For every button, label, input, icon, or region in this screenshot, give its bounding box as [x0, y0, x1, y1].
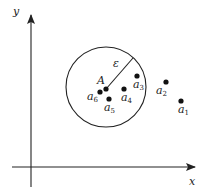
radius-line	[106, 58, 133, 89]
point-a1-label: a1	[178, 103, 189, 117]
point-a6-label: a6	[87, 90, 99, 104]
epsilon-label: ε	[113, 57, 119, 70]
point-a6	[97, 89, 102, 94]
point-a2	[163, 79, 168, 84]
point-A-label: A	[96, 74, 105, 87]
point-a2-label: a2	[156, 84, 167, 98]
point-a3-label: a3	[133, 78, 144, 92]
point-a4-label: a4	[121, 91, 133, 105]
y-axis-label: y	[12, 5, 20, 18]
point-a5-label: a5	[104, 101, 115, 115]
point-A	[103, 86, 108, 91]
epsilon-neighborhood-diagram: y x ε A a6 a5 a4 a3 a2 a1	[0, 0, 208, 194]
x-axis-label: x	[189, 175, 196, 188]
